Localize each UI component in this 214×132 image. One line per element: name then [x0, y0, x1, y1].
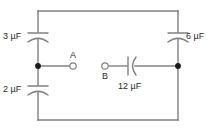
junction-node-left — [35, 63, 41, 69]
capacitor-2uf-label: 2 µF — [3, 85, 21, 94]
circuit-schematic — [0, 0, 214, 132]
junction-node-right — [175, 63, 181, 69]
terminal-a-marker[interactable] — [70, 63, 76, 69]
capacitor-6uf-label: 6 µF — [186, 32, 204, 41]
capacitor-3uf-label: 3 µF — [3, 32, 21, 41]
circuit-diagram-figure: 3 µF 2 µF 6 µF 12 µF A B — [0, 0, 214, 132]
terminal-a-label: A — [70, 51, 76, 60]
capacitor-12uf-label: 12 µF — [118, 82, 141, 91]
terminal-b-label: B — [102, 72, 108, 81]
terminal-b-marker[interactable] — [102, 63, 108, 69]
